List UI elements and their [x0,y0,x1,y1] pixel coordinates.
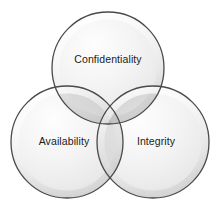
label-confidentiality: Confidentiality [74,53,142,65]
venn-circle-group [11,12,209,198]
label-integrity: Integrity [137,135,176,147]
label-availability: Availability [39,135,90,147]
venn-diagram-container: Confidentiality Availability Integrity [0,0,220,212]
venn-diagram-svg: Confidentiality Availability Integrity [0,0,220,212]
